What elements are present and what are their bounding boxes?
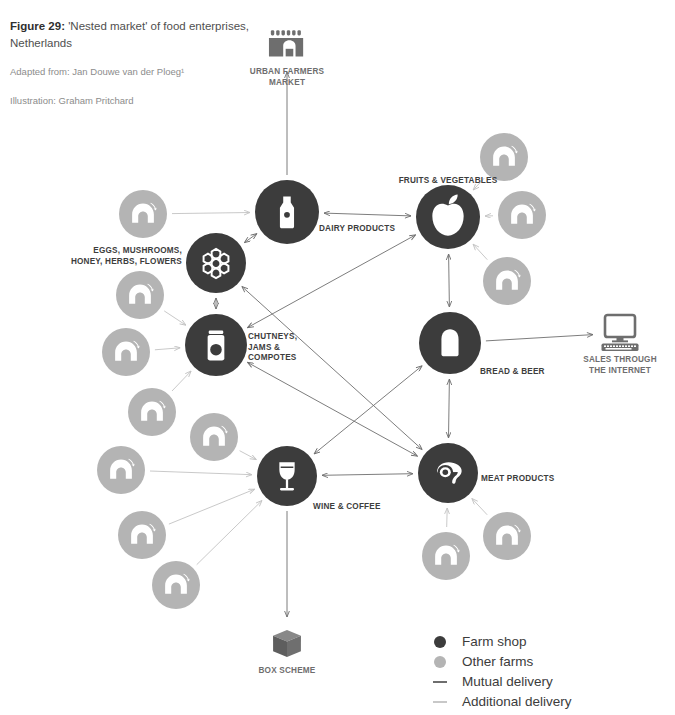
node-label-eggs: EGGS, MUSHROOMS,HONEY, HERBS, FLOWERS [22, 246, 182, 267]
node-label-meat: MEAT PRODUCTS [481, 474, 601, 485]
edge-f13-meat [472, 499, 487, 515]
figure-caption: Figure 29: 'Nested market' of food enter… [10, 18, 310, 108]
legend-dot-swatch [434, 656, 446, 668]
edge-dairy-eggs [244, 234, 257, 243]
edge-f7-wine [169, 489, 255, 524]
node-label-wine: WINE & COFFEE [313, 502, 433, 513]
other-farm-circle [102, 328, 150, 376]
other-farm-circle [152, 561, 200, 609]
node-label-chutney: CHUTNEYS,JAMS &COMPOTES [248, 332, 368, 364]
farm-shop-meat[interactable] [418, 443, 478, 503]
legend-line-icon [432, 701, 462, 703]
edge-dairy-fruitveg [324, 213, 411, 216]
edge-f3-chutney [155, 348, 180, 350]
other-farm-circle [483, 512, 531, 560]
legend-item-3: Additional delivery [432, 692, 662, 712]
other-farm-node[interactable] [483, 512, 531, 560]
legend-line-swatch [433, 701, 447, 703]
other-farm-circle [190, 413, 238, 461]
farm-shop-circle [186, 233, 246, 293]
other-farm-node[interactable] [498, 191, 546, 239]
edge-bread-internet [486, 335, 593, 341]
farm-shop-wine[interactable] [257, 446, 317, 506]
box-icon [273, 630, 301, 657]
other-farm-node[interactable] [422, 532, 470, 580]
figure-number: Figure 29: [10, 20, 65, 32]
edge-wine-meat [322, 474, 413, 476]
jam-jar-icon [208, 330, 225, 360]
farm-shop-eggs[interactable] [186, 233, 246, 293]
bread-slice-icon [441, 329, 458, 356]
other-farm-circle [97, 446, 145, 494]
edge-chutney-meat [248, 362, 418, 456]
other-farm-node[interactable] [128, 388, 176, 436]
edge-f8-wine [197, 501, 262, 565]
outlet-label-internet: SALES THROUGHTHE INTERNET [540, 354, 675, 376]
other-farm-node[interactable] [97, 446, 145, 494]
edge-f4-chutney [172, 371, 191, 391]
farm-shop-chutney[interactable] [185, 314, 247, 376]
other-farm-circle [483, 257, 531, 305]
edge-f5-wine [240, 451, 257, 460]
outlet-box[interactable] [273, 630, 301, 657]
other-farm-circle [118, 511, 166, 559]
legend-dot-icon [432, 636, 462, 648]
edge-fruitveg-bread [449, 254, 450, 307]
figure-illustrator: Illustration: Graham Pritchard [10, 93, 310, 108]
other-farm-circle [498, 191, 546, 239]
edge-f11-fruitveg [473, 244, 487, 260]
other-farm-circle [128, 388, 176, 436]
legend: Farm shopOther farmsMutual deliveryAddit… [432, 632, 662, 712]
legend-item-0: Farm shop [432, 632, 662, 652]
other-farm-node[interactable] [152, 561, 200, 609]
legend-line-swatch [433, 681, 447, 683]
farm-shop-bread[interactable] [419, 312, 481, 374]
legend-item-1: Other farms [432, 652, 662, 672]
legend-dot-swatch [434, 636, 446, 648]
edge-f6-wine [150, 471, 252, 475]
figure-title: Figure 29: 'Nested market' of food enter… [10, 18, 310, 52]
other-farm-node[interactable] [483, 257, 531, 305]
farm-shop-fruitveg[interactable] [416, 185, 480, 249]
edge-bread-meat [449, 379, 450, 438]
legend-dot-icon [432, 656, 462, 668]
legend-label: Farm shop [462, 632, 527, 652]
node-label-fruitveg: FRUITS & VEGETABLES [368, 176, 528, 187]
other-farm-node[interactable] [190, 413, 238, 461]
other-farm-node[interactable] [119, 190, 167, 238]
outlet-label-box: BOX SCHEME [207, 665, 367, 676]
outlet-label-market: URBAN FARMERSMARKET [207, 66, 367, 88]
other-farm-node[interactable] [116, 271, 164, 319]
legend-label: Additional delivery [462, 692, 572, 712]
legend-label: Mutual delivery [462, 672, 553, 692]
legend-label: Other farms [462, 652, 533, 672]
outlet-internet[interactable] [602, 315, 639, 351]
legend-item-2: Mutual delivery [432, 672, 662, 692]
computer-icon [602, 315, 639, 351]
edge-bread-wine [314, 366, 422, 454]
other-farm-circle [119, 190, 167, 238]
other-farm-node[interactable] [118, 511, 166, 559]
figure-root: Figure 29: 'Nested market' of food enter… [0, 0, 675, 715]
other-farm-circle [480, 133, 528, 181]
other-farm-circle [422, 532, 470, 580]
other-farm-node[interactable] [480, 133, 528, 181]
node-label-dairy: DAIRY PRODUCTS [319, 224, 439, 235]
edge-chutney-fruitveg [248, 235, 416, 328]
farm-shop-dairy[interactable] [255, 180, 319, 244]
other-farm-circle [116, 271, 164, 319]
legend-line-icon [432, 681, 462, 683]
edge-eggs-meat [242, 287, 422, 450]
edge-f2-chutney [164, 311, 186, 325]
edge-f12-meat [447, 508, 448, 527]
edge-f1-dairy [172, 213, 250, 214]
other-farm-node[interactable] [102, 328, 150, 376]
